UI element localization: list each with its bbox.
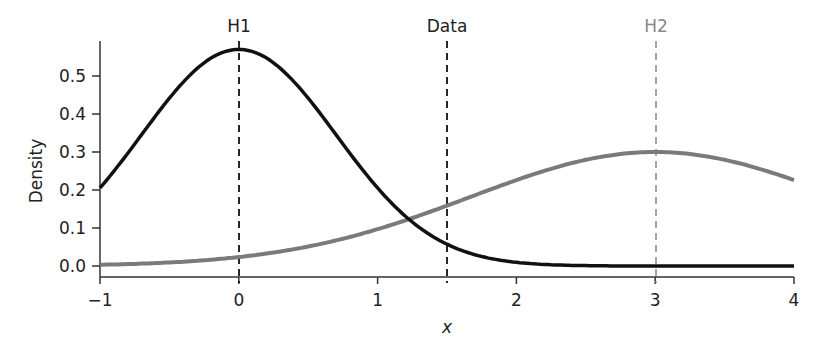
y-tick-label: 0.5	[59, 66, 86, 86]
h2-label: H2	[644, 16, 668, 36]
y-tick-label: 0.1	[59, 218, 86, 238]
y-tick-label: 0.2	[59, 180, 86, 200]
x-tick-label: 0	[233, 290, 244, 310]
x-axis: −101234 x	[87, 277, 799, 337]
h1-label: H1	[227, 16, 251, 36]
density-chart: 0.00.10.20.30.40.5 Density −101234 x H1 …	[0, 0, 823, 355]
y-axis: 0.00.10.20.30.40.5 Density	[26, 41, 100, 277]
x-axis-label: x	[441, 317, 453, 337]
y-axis-label: Density	[26, 139, 46, 204]
x-tick-label: 2	[511, 290, 522, 310]
x-tick-label: 3	[650, 290, 661, 310]
x-tick-label: 1	[372, 290, 383, 310]
y-tick-label: 0.0	[59, 256, 86, 276]
y-tick-label: 0.3	[59, 142, 86, 162]
y-tick-label: 0.4	[59, 104, 86, 124]
data-label: Data	[427, 16, 468, 36]
x-tick-label: −1	[87, 290, 112, 310]
x-tick-label: 4	[789, 290, 800, 310]
